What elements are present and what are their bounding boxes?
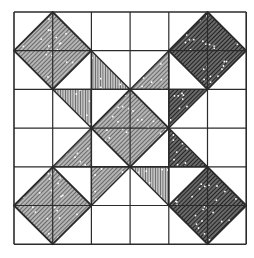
speckle-dot	[50, 29, 52, 31]
speckle-dot	[49, 178, 51, 180]
speckle-dot	[101, 168, 103, 170]
speckle-dot	[60, 196, 62, 198]
speckle-dot	[185, 162, 187, 164]
speckle-dot	[204, 206, 206, 208]
speckle-dot	[47, 218, 49, 220]
speckle-dot	[191, 196, 193, 198]
speckle-dot	[200, 183, 202, 185]
speckle-dot	[79, 161, 81, 163]
speckle-dot	[39, 192, 41, 194]
speckle-dot	[185, 42, 187, 44]
speckle-dot	[173, 134, 175, 136]
speckle-dot	[59, 177, 61, 179]
speckle-dot	[210, 75, 212, 77]
speckle-dot	[175, 201, 177, 203]
speckle-dot	[40, 38, 42, 40]
speckle-dot	[66, 61, 68, 63]
speckle-dot	[112, 116, 114, 118]
speckle-dot	[208, 184, 210, 186]
speckle-dot	[161, 79, 163, 81]
speckle-dot	[94, 191, 96, 193]
speckle-dot	[84, 164, 86, 166]
speckle-dot	[57, 183, 59, 185]
speckle-dot	[221, 68, 223, 70]
speckle-dot	[51, 190, 53, 192]
speckle-dot	[210, 81, 212, 83]
speckle-dot	[173, 139, 175, 141]
speckle-dot	[100, 87, 102, 89]
speckle-dot	[119, 83, 121, 85]
speckle-dot	[89, 100, 91, 102]
quilt-grid-svg	[0, 0, 254, 258]
speckle-dot	[181, 93, 183, 95]
speckle-dot	[203, 79, 205, 81]
speckle-dot	[35, 211, 37, 213]
speckle-dot	[145, 170, 147, 172]
speckle-dot	[138, 172, 140, 174]
speckle-dot	[153, 120, 155, 122]
speckle-dot	[195, 215, 197, 217]
speckle-dot	[199, 188, 201, 190]
speckle-dot	[198, 227, 200, 229]
speckle-dot	[216, 185, 218, 187]
speckle-dot	[189, 39, 191, 41]
speckle-dot	[32, 206, 34, 208]
speckle-dot	[161, 169, 163, 171]
speckle-dot	[117, 106, 119, 108]
speckle-dot	[177, 95, 179, 97]
speckle-dot	[204, 185, 206, 187]
speckle-dot	[202, 40, 204, 42]
speckle-dot	[226, 61, 228, 63]
speckle-dot	[72, 62, 74, 64]
speckle-dot	[106, 129, 108, 131]
quilt-pattern-figure	[0, 0, 254, 258]
speckle-dot	[56, 210, 58, 212]
speckle-dot	[193, 39, 195, 41]
speckle-dot	[48, 18, 50, 20]
speckle-dot	[213, 47, 215, 49]
speckle-dot	[223, 61, 225, 63]
speckle-dot	[196, 223, 198, 225]
speckle-dot	[224, 191, 226, 193]
speckle-dot	[62, 195, 64, 197]
speckle-dot	[186, 106, 188, 108]
speckle-dot	[60, 42, 62, 44]
speckle-dot	[201, 220, 203, 222]
speckle-dot	[149, 182, 151, 184]
speckle-dot	[221, 221, 223, 223]
speckle-dot	[182, 98, 184, 100]
speckle-dot	[204, 233, 206, 235]
speckle-dot	[203, 68, 205, 70]
speckle-dot	[48, 45, 50, 47]
speckle-dot	[126, 131, 128, 133]
speckle-dot	[86, 114, 88, 116]
speckle-dot	[47, 76, 49, 78]
speckle-dot	[122, 171, 124, 173]
speckle-dot	[186, 148, 188, 150]
speckle-dot	[223, 65, 225, 67]
speckle-dot	[170, 119, 172, 121]
speckle-dot	[55, 37, 57, 39]
speckle-dot	[22, 46, 24, 48]
speckle-dot	[74, 156, 76, 158]
speckle-dot	[213, 45, 215, 47]
speckle-dot	[122, 106, 124, 108]
speckle-dot	[87, 148, 89, 150]
speckle-dot	[176, 151, 178, 153]
speckle-dot	[100, 78, 102, 80]
speckle-dot	[94, 174, 96, 176]
speckle-dot	[160, 63, 162, 65]
speckle-dot	[174, 95, 176, 97]
speckle-dot	[216, 199, 218, 201]
speckle-dot	[117, 121, 119, 123]
speckle-dot	[202, 208, 204, 210]
speckle-dot	[75, 93, 77, 95]
speckle-dot	[132, 110, 134, 112]
speckle-dot	[151, 81, 153, 83]
speckle-dot	[48, 29, 50, 31]
speckle-dot	[235, 198, 237, 200]
speckle-dot	[76, 213, 78, 215]
speckle-dot	[212, 212, 214, 214]
speckle-dot	[177, 164, 179, 166]
speckle-dot	[179, 107, 181, 109]
